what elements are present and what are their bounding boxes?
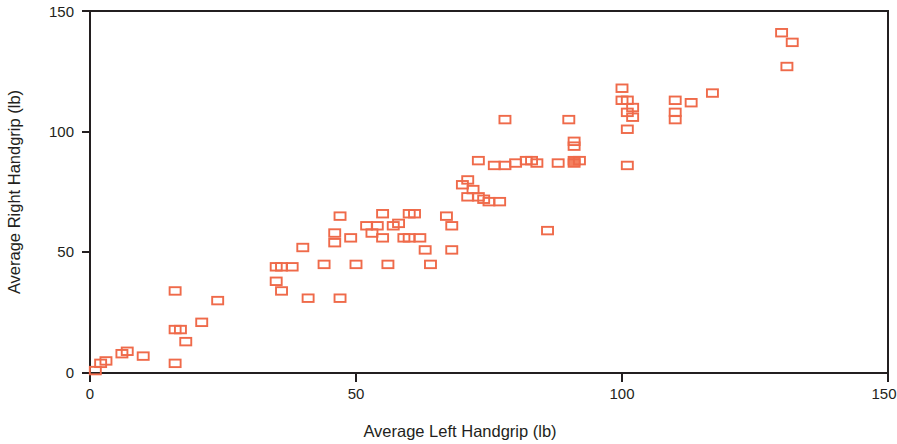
data-point xyxy=(297,244,308,252)
x-tick-label-0: 0 xyxy=(86,385,94,402)
y-tick-label-0: 0 xyxy=(66,364,74,381)
scatter-plot-figure: 0 50 100 150 0 50 100 150 Average Right … xyxy=(0,0,897,444)
x-tick-label-100: 100 xyxy=(609,385,634,402)
data-point xyxy=(686,99,697,107)
data-point xyxy=(441,212,452,220)
data-point xyxy=(351,261,362,269)
y-axis-title: Average Right Handgrip (lb) xyxy=(5,90,23,294)
data-point xyxy=(329,239,340,247)
y-tick-label-150: 150 xyxy=(49,3,74,20)
data-point xyxy=(276,287,287,295)
data-point xyxy=(542,227,553,235)
x-tick-label-50: 50 xyxy=(348,385,365,402)
x-axis-title: Average Left Handgrip (lb) xyxy=(363,422,556,440)
data-point-layer xyxy=(90,29,798,374)
data-point xyxy=(303,294,314,302)
data-point xyxy=(622,162,633,170)
data-point xyxy=(563,116,574,124)
data-point xyxy=(489,162,500,170)
data-point xyxy=(138,352,149,360)
data-point xyxy=(707,89,718,97)
data-point xyxy=(569,142,580,150)
chart-svg: 0 50 100 150 0 50 100 150 Average Right … xyxy=(0,0,897,444)
data-point xyxy=(473,157,484,165)
x-tick-label-150: 150 xyxy=(871,385,896,402)
data-point xyxy=(670,97,681,105)
y-axis-tick-labels: 0 50 100 150 xyxy=(49,3,74,381)
plot-frame xyxy=(90,11,888,373)
y-axis-ticks xyxy=(82,11,90,373)
data-point xyxy=(271,278,282,286)
data-point xyxy=(377,234,388,242)
data-point xyxy=(212,297,223,305)
data-point xyxy=(569,138,580,146)
data-point xyxy=(335,294,346,302)
data-point xyxy=(420,246,431,254)
data-point xyxy=(377,210,388,218)
data-point xyxy=(776,29,787,37)
plot-border xyxy=(90,11,888,373)
data-point xyxy=(345,234,356,242)
data-point xyxy=(425,261,436,269)
data-point xyxy=(781,63,792,70)
y-tick-label-50: 50 xyxy=(57,243,74,260)
data-point xyxy=(446,246,457,254)
data-point xyxy=(617,84,628,92)
data-point xyxy=(319,261,330,269)
data-point xyxy=(510,159,521,167)
data-point xyxy=(329,229,340,237)
data-point xyxy=(335,212,346,220)
data-point xyxy=(446,222,457,230)
data-point xyxy=(170,287,181,295)
data-point xyxy=(622,126,633,134)
data-point xyxy=(553,159,564,167)
x-axis-tick-labels: 0 50 100 150 xyxy=(86,385,897,402)
data-point xyxy=(196,319,207,327)
data-point xyxy=(287,263,298,271)
data-point xyxy=(170,360,181,368)
data-point xyxy=(499,162,510,170)
data-point xyxy=(414,234,425,242)
data-point xyxy=(494,198,505,206)
x-axis-ticks xyxy=(90,373,888,382)
data-point xyxy=(499,116,510,124)
data-point xyxy=(382,261,393,269)
y-tick-label-100: 100 xyxy=(49,123,74,140)
data-point xyxy=(180,338,191,346)
data-point xyxy=(787,39,798,47)
